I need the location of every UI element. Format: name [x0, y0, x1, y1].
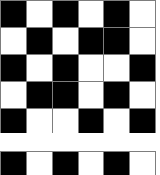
- grid-cell-r6-c1[interactable]: [1, 152, 26, 175]
- grid-main-block: [0, 0, 156, 136]
- grid-cell-r1-c5[interactable]: [104, 1, 129, 27]
- grid-cell-r5-c2[interactable]: [27, 109, 52, 135]
- grid-cell-r3-c6[interactable]: [130, 55, 155, 81]
- grid-cell-r6-c4[interactable]: [79, 152, 104, 175]
- grid-cell-r3-c1[interactable]: [1, 55, 26, 81]
- grid-cell-r3-c4[interactable]: [79, 55, 104, 81]
- grid-cell-r2-c5[interactable]: [104, 28, 129, 54]
- grid-cell-r2-c1[interactable]: [1, 28, 26, 54]
- grid-cell-r5-c5[interactable]: [104, 109, 129, 135]
- grid-cell-r6-c2[interactable]: [27, 152, 52, 175]
- grid-cell-r2-c4[interactable]: [79, 28, 104, 54]
- grid-cell-r2-c2[interactable]: [27, 28, 52, 54]
- grid-cell-r1-c2[interactable]: [27, 1, 52, 27]
- grid-cell-r5-c6[interactable]: [130, 109, 155, 135]
- grid-cell-r1-c3[interactable]: [53, 1, 78, 27]
- grid-cell-r4-c1[interactable]: [1, 82, 26, 108]
- grid-cell-r3-c5[interactable]: [104, 55, 129, 81]
- grid-cell-r5-c1[interactable]: [1, 109, 26, 135]
- grid-cell-r4-c3[interactable]: [53, 82, 78, 108]
- grid-pattern-root: [0, 0, 160, 175]
- grid-cell-r6-c3[interactable]: [53, 152, 78, 175]
- grid-cell-r2-c3[interactable]: [53, 28, 78, 54]
- grid-cell-r6-c5[interactable]: [104, 152, 129, 175]
- grid-cell-r3-c2[interactable]: [27, 55, 52, 81]
- grid-cell-r1-c1[interactable]: [1, 1, 26, 27]
- grid-bottom-strip: [0, 151, 156, 175]
- grid-cell-r5-c3[interactable]: [53, 109, 78, 135]
- grid-cell-r4-c4[interactable]: [79, 82, 104, 108]
- grid-cell-r5-c4[interactable]: [79, 109, 104, 135]
- grid-cell-r4-c5[interactable]: [104, 82, 129, 108]
- grid-cell-r1-c4[interactable]: [79, 1, 104, 27]
- grid-cell-r2-c6[interactable]: [130, 28, 155, 54]
- grid-cell-r6-c6[interactable]: [130, 152, 155, 175]
- grid-cell-r3-c3[interactable]: [53, 55, 78, 81]
- grid-cell-r4-c2[interactable]: [27, 82, 52, 108]
- grid-cell-r1-c6[interactable]: [130, 1, 155, 27]
- grid-cell-r4-c6[interactable]: [130, 82, 155, 108]
- grid-gap-spacer: [0, 133, 160, 151]
